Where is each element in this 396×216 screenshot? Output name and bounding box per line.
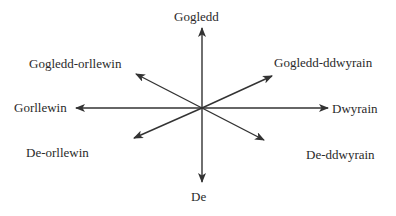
arrow-southeast (202, 108, 264, 140)
arrow-northwest (136, 74, 202, 108)
label-southeast: De-ddwyrain (306, 147, 375, 162)
label-south: De (191, 189, 206, 204)
label-east: Dwyrain (332, 101, 378, 116)
arrow-northeast (202, 76, 272, 108)
compass-diagram: Gogledd Gogledd-ddwyrain Dwyrain De-ddwy… (0, 0, 396, 216)
label-north: Gogledd (174, 9, 219, 24)
label-west: Gorllewin (14, 100, 67, 115)
arrow-southwest (134, 108, 202, 138)
label-northeast: Gogledd-ddwyrain (274, 55, 372, 70)
label-northwest: Gogledd-orllewin (29, 56, 121, 71)
label-southwest: De-orllewin (26, 145, 89, 160)
